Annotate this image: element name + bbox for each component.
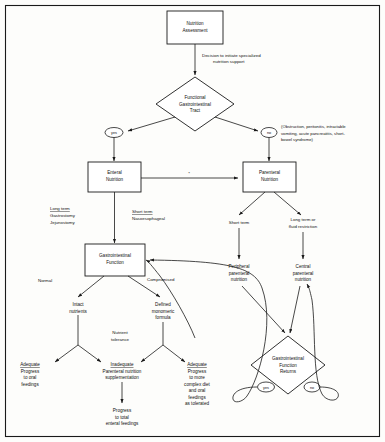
- pill-yes-top: yes: [105, 128, 123, 138]
- note-contraindications-line2: vomiting, acute pancreatitis, short-: [281, 131, 345, 136]
- node-central-line3: nutrition: [295, 277, 312, 282]
- node-inadequate-line2: Parenteral nutrition: [103, 369, 142, 374]
- node-inadequate-line3: supplementation: [105, 375, 139, 380]
- node-intact-nutrients: Intact nutrients: [69, 302, 87, 314]
- node-adequate-progress-oral: Adequate Progress to oral feedings: [20, 362, 40, 387]
- edge-intact-to-adequate: [55, 345, 78, 362]
- node-adequate-complex-line6: feedings: [188, 395, 206, 400]
- node-adequate-complex-line4: complex diet: [184, 382, 211, 387]
- node-central-line1: Central: [296, 264, 311, 269]
- node-progress-total-line2: to total: [115, 415, 129, 420]
- node-gi-returns-line3: Returns: [280, 369, 297, 374]
- note-contraindications: (Obstruction, peritonitis, intractable v…: [281, 124, 346, 142]
- node-nutrition-assessment: Nutrition Assessment: [167, 11, 223, 44]
- edge-gi-tract-no: [215, 117, 258, 131]
- node-adequate-complex-line2: Progress: [188, 369, 207, 374]
- label-decision-to-initiate: Decision to initiate specialized nutriti…: [202, 53, 261, 64]
- node-defined-line3: formula: [155, 315, 171, 320]
- node-inadequate-parenteral-supplementation: Inadequate Parenteral nutrition suppleme…: [103, 362, 142, 380]
- node-enteral-nutrition: Enteral Nutrition: [88, 162, 141, 192]
- node-adequate-oral-line1: Adequate: [20, 362, 40, 367]
- label-long-term-enteral-line3: Jejunostomy: [50, 220, 75, 225]
- node-adequate-oral-line2: Progress: [21, 369, 40, 374]
- label-long-term-parenteral-line1: Long term or: [291, 217, 316, 222]
- node-intact-line1: Intact: [72, 302, 84, 307]
- node-defined-monomeric-formula: Defined monomeric formula: [152, 302, 175, 320]
- label-nutrient-tolerance-line2: tolerance: [111, 337, 130, 342]
- node-defined-line1: Defined: [155, 302, 171, 307]
- node-adequate-progress-complex-diet: Adequate Progress to more complex diet a…: [184, 362, 211, 406]
- label-short-term-enteral: Short term Nasoesophageal: [132, 209, 165, 221]
- edge-defined-to-inadequate: [141, 345, 163, 362]
- pill-no-top: no: [261, 128, 277, 138]
- pill-no-top-label: no: [267, 131, 271, 135]
- label-long-term-enteral: Long term Gastrostomy Jejunostomy: [50, 206, 76, 225]
- edge-gi-tract-yes: [128, 117, 175, 131]
- node-progress-total-line1: Progress: [113, 408, 132, 413]
- pill-yes-top-label: yes: [111, 131, 117, 135]
- node-peripheral-line3: nutrition: [231, 277, 248, 282]
- note-contraindications-line3: bowel syndrome): [281, 137, 313, 142]
- node-adequate-complex-line5: and oral: [189, 388, 206, 393]
- node-gi-returns-line2: Function: [279, 363, 297, 368]
- node-gi-tract-line3: Tract: [190, 108, 201, 113]
- node-gi-function-line1: Gastrointestinal: [99, 253, 131, 258]
- node-assessment-line2: Assessment: [182, 28, 208, 33]
- flowchart-container: Nutrition Assessment Decision to initiat…: [0, 0, 385, 442]
- label-short-term-enteral-line1: Short term: [132, 209, 153, 214]
- node-gi-returns-line1: Gastrointestinal: [272, 356, 304, 361]
- edge-parenteral-short-term: [239, 192, 265, 215]
- node-adequate-oral-line4: feedings: [21, 382, 39, 387]
- node-gi-tract-line2: Gastrointestinal: [179, 102, 211, 107]
- node-enteral-line2: Nutrition: [106, 177, 124, 182]
- node-progress-total-enteral-feedings: Progress to total enteral feedings: [106, 408, 139, 426]
- edge-gi-function-normal: [78, 276, 104, 297]
- label-asterisk: *: [188, 171, 190, 176]
- node-adequate-complex-line7: as tolerated: [185, 401, 209, 406]
- label-long-term-enteral-line1: Long term: [50, 206, 70, 211]
- node-intact-line2: nutrients: [69, 309, 87, 314]
- node-enteral-line1: Enteral: [107, 170, 122, 175]
- node-gi-tract-line1: Functional: [184, 95, 205, 100]
- label-long-term-enteral-line2: Gastrostomy: [50, 213, 76, 218]
- node-assessment-line1: Nutrition: [186, 21, 204, 26]
- node-central-line2: parenteral: [293, 271, 314, 276]
- label-short-term-parenteral: Short term: [229, 220, 250, 225]
- node-adequate-complex-line3: to more: [189, 375, 205, 380]
- node-functional-gi-tract: Functional Gastrointestinal Tract: [156, 77, 234, 131]
- label-long-term-parenteral: Long term or fluid restriction: [289, 217, 318, 229]
- label-decision-line2: nutrition support: [213, 59, 245, 64]
- edge-central-to-returns: [290, 286, 300, 333]
- edge-compromised-loop-to-gi-function: [146, 260, 195, 338]
- label-decision-line1: Decision to initiate specialized: [202, 53, 261, 58]
- label-nutrient-tolerance: Nutrient tolerance: [111, 330, 130, 342]
- pill-no-bottom-label: no: [310, 386, 314, 390]
- node-adequate-complex-line1: Adequate: [187, 362, 207, 367]
- label-long-term-parenteral-line2: fluid restriction: [289, 224, 318, 229]
- pill-no-bottom: no: [304, 382, 320, 392]
- node-defined-line2: monomeric: [152, 309, 175, 314]
- edge-intact-to-inadequate: [78, 345, 101, 362]
- edge-parenteral-long-term: [274, 192, 301, 215]
- node-adequate-oral-line3: to oral: [24, 375, 37, 380]
- label-nutrient-tolerance-line1: Nutrient: [112, 330, 128, 335]
- node-central-parenteral-nutrition: Central parenteral nutrition: [293, 264, 314, 282]
- nutrition-support-flowchart: Nutrition Assessment Decision to initiat…: [0, 0, 385, 442]
- node-parenteral-line1: Parenteral: [259, 170, 280, 175]
- node-gastrointestinal-function: Gastrointestinal Function: [85, 244, 145, 276]
- node-progress-total-line3: enteral feedings: [106, 421, 139, 426]
- node-parenteral-nutrition: Parenteral Nutrition: [243, 162, 296, 192]
- pill-yes-bottom-label: yes: [263, 386, 269, 390]
- edge-defined-to-adequate: [163, 345, 185, 362]
- node-inadequate-line1: Inadequate: [111, 362, 134, 367]
- note-contraindications-line1: (Obstruction, peritonitis, intractable: [281, 124, 346, 129]
- node-parenteral-line2: Nutrition: [261, 177, 279, 182]
- node-gi-function-line2: Function: [106, 260, 124, 265]
- pill-yes-bottom: yes: [258, 382, 275, 392]
- label-normal: Normal: [38, 278, 52, 283]
- label-short-term-enteral-line2: Nasoesophageal: [132, 216, 165, 221]
